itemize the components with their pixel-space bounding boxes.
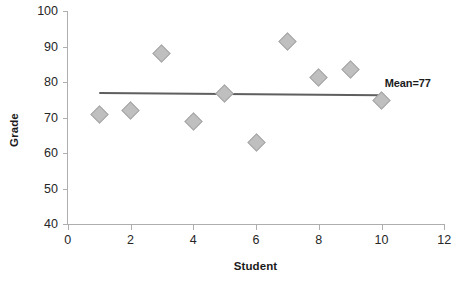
data-point xyxy=(215,84,233,102)
data-point xyxy=(341,61,359,79)
x-axis-label: Student xyxy=(67,260,444,272)
y-tick xyxy=(63,82,68,83)
x-tick-label: 4 xyxy=(173,234,213,247)
y-tick-label: 60 xyxy=(25,147,58,160)
x-tick-label: 0 xyxy=(48,234,88,247)
x-tick xyxy=(319,225,320,230)
x-tick xyxy=(444,225,445,230)
y-axis-label-text: Grade xyxy=(8,113,20,147)
y-tick xyxy=(63,189,68,190)
y-tick-label: 40 xyxy=(25,218,58,231)
x-tick-label: 10 xyxy=(362,234,402,247)
data-point xyxy=(184,112,202,130)
x-tick xyxy=(131,225,132,230)
x-tick xyxy=(256,225,257,230)
mean-reference-line xyxy=(99,92,382,96)
mean-annotation: Mean=77 xyxy=(385,77,431,89)
y-tick xyxy=(63,47,68,48)
y-tick xyxy=(63,118,68,119)
y-tick-label: 70 xyxy=(25,112,58,125)
y-tick-label: 50 xyxy=(25,183,58,196)
y-axis-label: Grade xyxy=(2,90,26,170)
data-point xyxy=(278,32,296,50)
x-tick-label: 12 xyxy=(424,234,464,247)
data-point xyxy=(247,133,265,151)
x-tick xyxy=(68,225,69,230)
data-point xyxy=(90,105,108,123)
y-tick-label: 100 xyxy=(25,5,58,18)
y-tick-label: 90 xyxy=(25,41,58,54)
scatter-chart: Grade 405060708090100 024681012 Mean=77 … xyxy=(0,0,466,286)
y-tick xyxy=(63,11,68,12)
x-tick-label: 6 xyxy=(236,234,276,247)
x-tick xyxy=(382,225,383,230)
data-point xyxy=(121,101,139,119)
x-tick-label: 8 xyxy=(299,234,339,247)
x-tick xyxy=(193,225,194,230)
y-tick-label: 80 xyxy=(25,76,58,89)
x-tick-label: 2 xyxy=(111,234,151,247)
data-point xyxy=(310,68,328,86)
data-point xyxy=(153,45,171,63)
y-tick xyxy=(63,153,68,154)
